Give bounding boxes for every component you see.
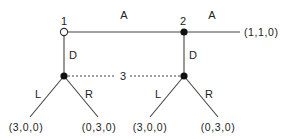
edge-label-L-1: L [35,88,41,100]
edge-label-R-2: R [205,88,213,100]
edge-label-D-1: D [69,49,77,61]
node-2-filled [180,28,187,35]
edge-label-L-2: L [155,88,161,100]
payoff-leaf-2: (0,3,0) [82,121,117,133]
edge-label-A-2: A [208,9,216,21]
payoff-leaf-4: (0,3,0) [201,121,236,133]
node-2-label: 2 [180,15,186,27]
game-tree-diagram: 1 2 A A D D L R L R 3 (1,1,0) (3,0,0) (0… [0,0,289,139]
information-set-label: 3 [120,70,126,82]
payoff-leaf-1: (3,0,0) [9,121,44,133]
payoff-leaf-3: (3,0,0) [133,121,168,133]
edge-label-D-2: D [189,49,197,61]
payoff-end-A: (1,1,0) [244,26,279,38]
node-1-open [60,28,67,35]
node-3-left-filled [60,72,67,79]
edge-label-A-1: A [120,9,128,21]
node-1-label: 1 [61,15,67,27]
node-3-right-filled [180,72,187,79]
edge-label-R-1: R [85,88,93,100]
